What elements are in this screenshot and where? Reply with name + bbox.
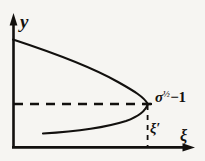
figure-container: y ξ ξ′ σ½−1 — [0, 0, 205, 161]
x-axis-label: ξ — [180, 128, 187, 144]
xi-prime-label: ξ′ — [150, 122, 160, 136]
x-axis — [12, 143, 195, 151]
figure-drawing — [0, 0, 205, 161]
minus-sign: − — [170, 89, 179, 105]
x-axis-arrowhead — [183, 143, 196, 151]
curve-lower-branch — [43, 104, 148, 134]
y-axis — [10, 13, 18, 148]
one-numeral: 1 — [179, 89, 186, 105]
sigma-level-label: σ½−1 — [155, 90, 186, 105]
sigma-exponent: ½ — [163, 89, 170, 99]
y-axis-label: y — [20, 12, 28, 31]
curve-upper-branch — [13, 40, 148, 105]
sigma-symbol: σ — [155, 89, 163, 105]
y-axis-arrowhead — [10, 13, 18, 26]
